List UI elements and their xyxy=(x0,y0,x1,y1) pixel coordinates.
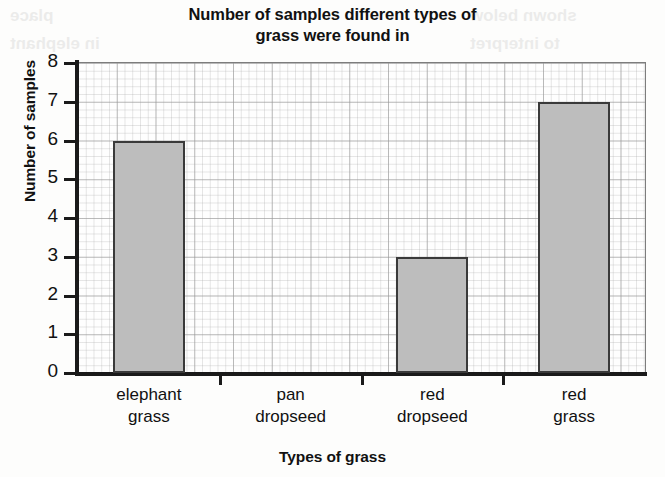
y-axis-tick xyxy=(64,372,76,375)
x-axis-category-label: reddropseed xyxy=(362,384,504,428)
bar-chart: shown below to interpret place in elepha… xyxy=(0,0,665,477)
chart-title: Number of samples different types of gra… xyxy=(0,4,665,46)
y-axis-tick-label: 3 xyxy=(34,244,58,266)
x-axis-category-label: elephantgrass xyxy=(78,384,220,428)
y-axis-tick xyxy=(64,333,76,336)
y-axis-tick xyxy=(64,178,76,181)
x-axis-category-label: redgrass xyxy=(503,384,645,428)
y-axis-tick xyxy=(64,217,76,220)
bar xyxy=(113,141,185,374)
x-axis-category-label-line: elephant xyxy=(78,384,220,406)
y-axis-tick-label: 1 xyxy=(34,321,58,343)
y-axis-tick-label: 2 xyxy=(34,283,58,305)
y-axis-tick xyxy=(64,140,76,143)
x-axis-category-label-line: red xyxy=(503,384,645,406)
y-axis-tick-label: 0 xyxy=(34,360,58,382)
x-axis-category-label-line: dropseed xyxy=(220,406,362,428)
x-axis-category-label-line: dropseed xyxy=(362,406,504,428)
y-axis-tick-label: 4 xyxy=(34,205,58,227)
plot-border-top xyxy=(78,62,646,63)
x-axis-title: Types of grass xyxy=(0,448,665,466)
y-axis-tick xyxy=(64,62,76,65)
y-axis-tick xyxy=(64,295,76,298)
y-axis-tick xyxy=(64,256,76,259)
x-axis-category-label-line: red xyxy=(362,384,504,406)
bar xyxy=(538,102,610,373)
chart-title-line-2: grass were found in xyxy=(0,25,665,46)
y-axis-tick-label: 5 xyxy=(34,166,58,188)
y-axis-tick-label: 8 xyxy=(34,50,58,72)
plot-border-right xyxy=(645,62,646,374)
x-axis-category-label-line: grass xyxy=(78,406,220,428)
bar xyxy=(396,257,468,373)
y-axis-tick xyxy=(64,101,76,104)
y-axis-tick-label: 6 xyxy=(34,128,58,150)
x-axis-category-label-line: pan xyxy=(220,384,362,406)
x-axis-category-label: pandropseed xyxy=(220,384,362,428)
chart-title-line-1: Number of samples different types of xyxy=(0,4,665,25)
y-axis-tick-label: 7 xyxy=(34,89,58,111)
x-axis-category-label-line: grass xyxy=(503,406,645,428)
